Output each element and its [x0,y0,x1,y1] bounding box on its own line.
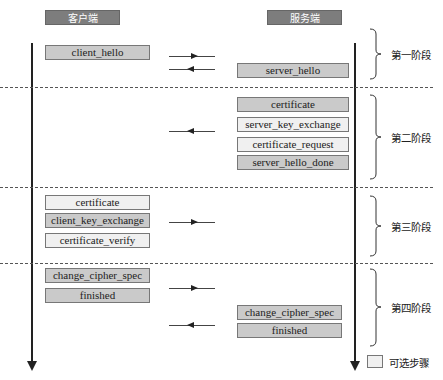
brace-phase-3 [369,195,381,257]
client-lifeline [31,43,33,363]
msg-client-key-exchange: client_key_exchange [45,213,150,228]
msg-server-certificate: certificate [237,97,349,112]
brace-phase-1 [369,28,381,80]
msg-client-hello: client_hello [45,45,150,60]
phase-label-3: 第三阶段 [391,219,431,234]
brace-phase-4 [369,268,381,347]
arrow-client-to-server [169,56,215,57]
arrow-client-to-server [169,288,215,289]
msg-client-change-cipher-spec: change_cipher_spec [45,268,150,283]
legend-optional-label: 可选步骤 [389,355,429,370]
legend-optional-swatch [367,355,383,368]
arrow-down-icon [27,361,37,371]
brace-phase-2 [369,94,381,180]
phase-separator [0,263,433,264]
msg-client-certificate: certificate [45,195,150,210]
phase-label-2: 第二阶段 [391,130,431,145]
phase-separator [0,187,433,188]
msg-server-hello-done: server_hello_done [237,155,349,170]
server-header: 服务端 [267,10,342,25]
msg-server-finished: finished [237,323,342,338]
arrow-down-icon [350,361,360,371]
phase-label-4: 第四阶段 [391,300,431,315]
msg-certificate-verify: certificate_verify [45,233,150,248]
server-lifeline [354,43,356,363]
msg-client-finished: finished [45,288,150,303]
phase-separator [0,87,433,88]
client-header: 客户端 [45,10,120,25]
arrow-server-to-client [169,69,215,70]
phase-label-1: 第一阶段 [391,47,431,62]
msg-server-key-exchange: server_key_exchange [237,117,349,132]
msg-certificate-request: certificate_request [237,137,349,152]
msg-server-hello: server_hello [237,63,349,78]
arrow-server-to-client [169,131,215,132]
msg-server-change-cipher-spec: change_cipher_spec [237,305,342,320]
arrow-client-to-server [169,222,215,223]
arrow-server-to-client [169,325,215,326]
